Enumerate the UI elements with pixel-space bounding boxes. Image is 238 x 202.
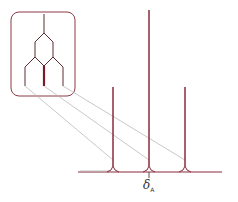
- peak-center: [143, 10, 155, 172]
- splitting-tree: [25, 14, 63, 86]
- delta-label: δA: [143, 178, 154, 193]
- peak-right: [179, 87, 191, 172]
- peak-left: [107, 87, 119, 172]
- spectrum-peaks: [107, 10, 191, 172]
- delta-subscript: A: [150, 186, 154, 193]
- splitting-diagram: [0, 0, 238, 202]
- guide-lines: [25, 86, 185, 160]
